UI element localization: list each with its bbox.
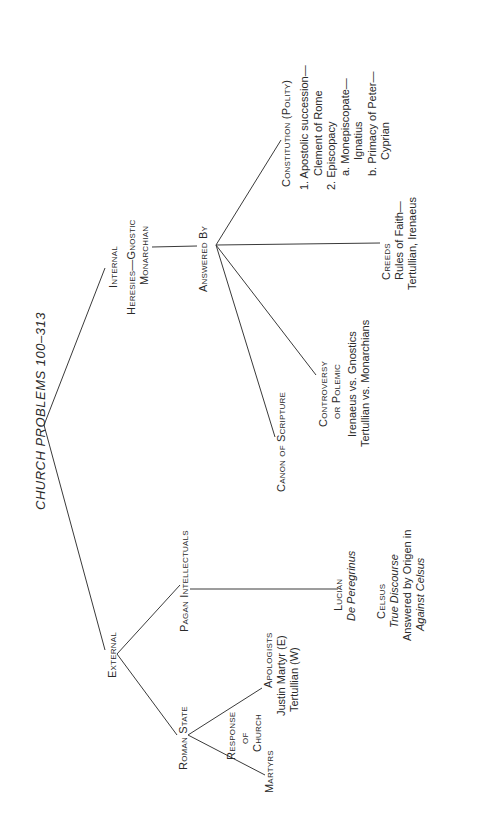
constitution-node: Constitution (Polity): [280, 80, 293, 187]
constitution-item: b. Primacy of Peter—: [366, 65, 380, 190]
controversy-heading2: or Polemic: [330, 307, 343, 447]
constitution-item: Clement of Rome: [312, 65, 326, 190]
constitution-item: a. Monepiscopate—: [339, 65, 353, 190]
external-to-pagan-line: [117, 585, 180, 654]
celsus-answer-line2: Against Celsus: [414, 530, 427, 641]
root-to-external-line: [44, 425, 105, 650]
creeds-node: Creeds Rules of Faith— Tertullian, Irena…: [380, 190, 419, 280]
response-of-church-label: Response of Church: [225, 700, 264, 760]
martyrs-node: Martyrs: [263, 750, 276, 793]
external-to-roman-line: [117, 654, 177, 735]
answered-to-constitution-line: [216, 140, 281, 245]
answered-to-creeds-line: [216, 243, 380, 245]
answered-to-canon-line: [216, 245, 275, 437]
constitution-item: Ignatius: [352, 65, 366, 190]
heresies-node: Heresies—Gnostic Monarchian: [125, 219, 151, 315]
canon-node: Canon of Scripture: [275, 392, 288, 492]
answered-to-controversy-line: [216, 245, 316, 375]
heresies-line2: Monarchian: [138, 219, 151, 315]
creeds-line2: Tertullian, Irenaeus: [406, 190, 419, 290]
response-line2: of: [238, 700, 251, 760]
controversy-heading1: Controversy: [317, 307, 330, 447]
lucian-node: Lucian De Peregrinus: [332, 551, 358, 621]
creeds-line1: Rules of Faith—: [393, 190, 406, 280]
response-line1: Response: [225, 700, 238, 760]
external-node: External: [106, 632, 119, 678]
roman-state-node: Roman State: [177, 706, 190, 770]
constitution-item: 1. Apostolic succession—: [298, 65, 312, 190]
pagan-intellectuals-node: Pagan Intellectuals: [178, 530, 191, 632]
internal-node: Internal: [107, 246, 120, 288]
constitution-item: 2. Episcopacy: [325, 65, 339, 190]
apologists-heading: Apologists: [262, 632, 275, 716]
lucian-name: Lucian: [332, 551, 345, 621]
celsus-name: Celsus: [375, 530, 388, 641]
creeds-heading: Creeds: [380, 190, 393, 280]
root-to-internal-line: [44, 268, 105, 425]
apologists-line1: Justin Martyr (E): [275, 632, 288, 716]
controversy-line2: Tertullian vs. Monarchians: [359, 307, 372, 447]
apologists-node: Apologists Justin Martyr (E) Tertullian …: [262, 632, 301, 716]
constitution-heading: Constitution (Polity): [280, 80, 293, 187]
constitution-item: Cyprian: [379, 65, 393, 190]
answered-by-node: Answered By: [197, 226, 210, 292]
heresies-line1: Heresies—Gnostic: [125, 219, 138, 315]
diagram-title: CHURCH PROBLEMS 100–313: [34, 312, 47, 510]
constitution-list: 1. Apostolic succession— Clement of Rome…: [298, 65, 393, 190]
celsus-answer-line1: Answered by Origen in: [401, 530, 414, 641]
celsus-work: True Discourse: [388, 530, 401, 641]
heresies-to-answered-line: [152, 246, 197, 247]
celsus-node: Celsus True Discourse Answered by Origen…: [375, 530, 427, 641]
apologists-line2: Tertullian (W): [288, 632, 301, 716]
controversy-line1: Irenaeus vs. Gnostics: [346, 307, 359, 447]
controversy-node: Controversy or Polemic Irenaeus vs. Gnos…: [317, 307, 372, 447]
lucian-work: De Peregrinus: [345, 551, 358, 621]
